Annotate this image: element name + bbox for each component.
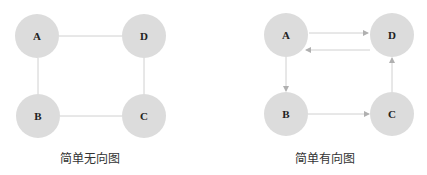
node-a: A xyxy=(15,14,59,58)
svg-text:D: D xyxy=(140,30,148,42)
svg-text:B: B xyxy=(282,108,290,120)
undirected-graph-caption: 简单无向图 xyxy=(60,149,120,166)
node-b: B xyxy=(264,92,308,136)
svg-text:D: D xyxy=(388,29,396,41)
node-b: B xyxy=(16,94,60,138)
directed-graph-caption: 简单有向图 xyxy=(295,149,355,166)
svg-text:B: B xyxy=(34,110,42,122)
undirected-graph: A D B C xyxy=(15,14,166,138)
node-a: A xyxy=(264,13,308,57)
svg-text:A: A xyxy=(33,30,41,42)
node-c: C xyxy=(122,94,166,138)
directed-graph: A D B C xyxy=(264,13,414,136)
node-c: C xyxy=(370,92,414,136)
svg-text:C: C xyxy=(140,110,148,122)
node-d: D xyxy=(122,14,166,58)
node-d: D xyxy=(370,13,414,57)
svg-text:C: C xyxy=(388,108,396,120)
svg-text:A: A xyxy=(282,29,290,41)
